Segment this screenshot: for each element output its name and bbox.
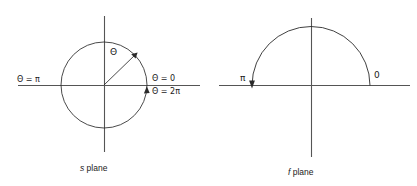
s-plane-direction-arrowhead xyxy=(144,86,150,93)
caption-f-plane-text: plane xyxy=(290,167,313,177)
label-zero: 0 xyxy=(374,71,380,80)
figure-root: Θ = π Θ = 0 Θ = 2π Θ s plane π 0 f plane xyxy=(0,0,417,186)
s-plane-panel xyxy=(18,16,200,152)
caption-f-plane: f plane xyxy=(288,168,314,177)
label-theta-equals-zero: Θ = 0 xyxy=(152,75,175,83)
label-pi: π xyxy=(240,74,245,83)
caption-s-plane: s plane xyxy=(80,164,107,173)
diagram-canvas xyxy=(0,0,417,186)
s-plane-radius-vector xyxy=(104,55,136,86)
label-theta-equals-pi: Θ = π xyxy=(17,76,40,84)
label-theta-equals-two-pi: Θ = 2π xyxy=(152,88,180,96)
f-plane-panel xyxy=(219,18,410,157)
f-plane-direction-arrowhead xyxy=(249,81,255,89)
label-theta-angle: Θ xyxy=(110,48,117,57)
caption-s-plane-text: plane xyxy=(84,163,107,173)
